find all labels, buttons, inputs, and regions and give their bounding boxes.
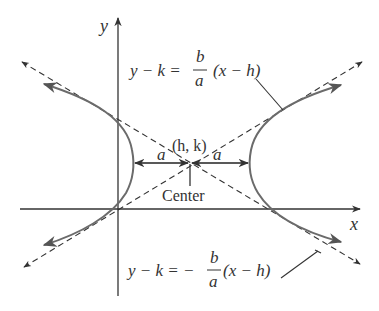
asymptote-positive-slope	[24, 62, 362, 267]
left-a-label: a	[157, 145, 166, 164]
upper-asymptote-equation: y − k = b a (x − h)	[128, 47, 261, 90]
center-coordinates-label: (h, k)	[172, 137, 207, 155]
upper-eq-lhs: y − k =	[128, 61, 181, 80]
distance-markers	[135, 163, 248, 186]
right-a-label: a	[213, 145, 222, 164]
asymptotes	[22, 62, 362, 267]
y-axis-label: y	[98, 16, 108, 36]
lower-asymptote-equation: y − k = − b a (x − h)	[126, 248, 271, 291]
lower-eq-rhs: (x − h)	[223, 261, 271, 280]
lower-equation-leader	[281, 251, 318, 278]
right-branch	[250, 85, 341, 242]
lower-eq-denominator: a	[209, 272, 218, 291]
center-caption: Center	[162, 187, 205, 204]
hyperbola-diagram: y x (h, k) Center a a y − k = b a (x − h…	[0, 0, 379, 311]
upper-equation-leader	[256, 79, 283, 110]
leader-lines	[256, 79, 321, 278]
upper-eq-denominator: a	[195, 71, 204, 90]
x-axis-label: x	[349, 214, 358, 234]
left-branch	[44, 84, 133, 245]
lower-eq-numerator: b	[210, 248, 219, 267]
upper-eq-numerator: b	[196, 47, 205, 66]
hyperbola-branches	[44, 84, 341, 245]
axes	[20, 18, 360, 296]
upper-eq-rhs: (x − h)	[213, 61, 261, 80]
lower-eq-lhs: y − k = −	[126, 261, 195, 280]
